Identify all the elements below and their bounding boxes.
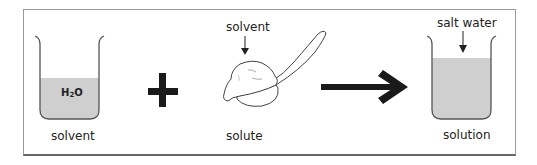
solute-pointer-label: solvent bbox=[226, 20, 270, 34]
solute-pointer-arrow bbox=[241, 36, 249, 55]
plus-icon bbox=[148, 73, 178, 107]
salt-water-label: salt water bbox=[437, 16, 497, 30]
solute-label: solute bbox=[226, 129, 263, 143]
spoon-with-solute bbox=[224, 31, 327, 106]
solution-label: solution bbox=[443, 128, 491, 142]
solvent-beaker bbox=[35, 36, 104, 119]
water-formula: H2O bbox=[61, 87, 83, 99]
spoon-handle bbox=[272, 31, 326, 85]
salt-water-pointer-arrow bbox=[459, 31, 467, 53]
solvent-label: solvent bbox=[51, 129, 95, 143]
solution-liquid bbox=[432, 58, 491, 119]
reaction-arrow-icon bbox=[321, 70, 408, 104]
